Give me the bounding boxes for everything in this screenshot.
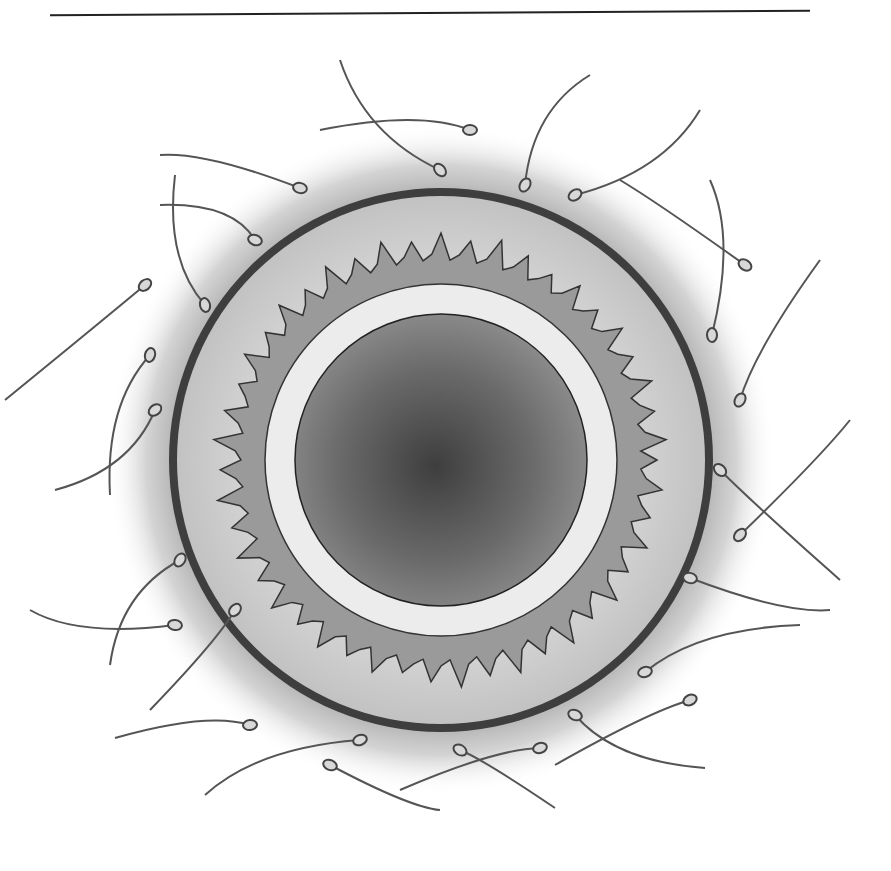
sperm-tail (115, 720, 250, 738)
sperm-head (243, 719, 258, 730)
sperm-head (168, 619, 183, 630)
sperm-head (736, 257, 753, 273)
sperm-head (682, 692, 699, 707)
egg-cell-illustration (0, 0, 891, 871)
sperm-head (463, 125, 477, 135)
sperm-head (707, 328, 717, 342)
cytoplasm (295, 314, 587, 606)
